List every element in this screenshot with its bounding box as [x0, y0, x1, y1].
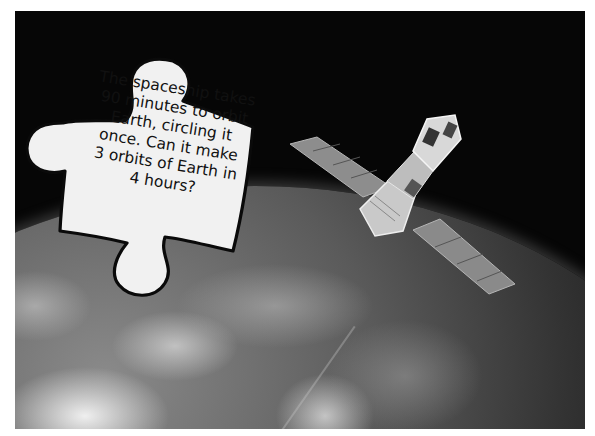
solar-panel-left: [290, 137, 391, 197]
solar-panel-right: [413, 219, 515, 294]
satellite-body: [360, 115, 461, 236]
space-photo: The spaceship takes 90 minutes to orbit …: [15, 11, 585, 429]
